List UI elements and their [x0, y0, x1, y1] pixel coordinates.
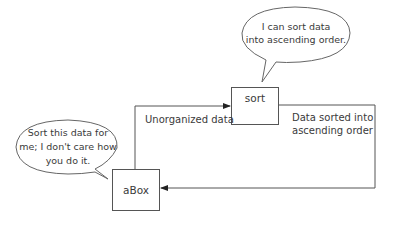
- edge-label-sorted-line2: ascending order: [292, 124, 373, 137]
- sort-bubble-line2: into ascending order.: [245, 33, 347, 46]
- sort-box-label: sort: [232, 92, 278, 105]
- edge-label-sorted-line1: Data sorted into: [292, 111, 373, 124]
- edge-label-unorganized-data: Unorganized data: [145, 113, 234, 126]
- abox-bubble-line1: Sort this data for: [18, 126, 118, 139]
- abox-bubble-line3: you do it.: [18, 154, 118, 167]
- sort-box: sort: [231, 87, 279, 125]
- abox-box-label: aBox: [113, 184, 159, 197]
- sort-bubble-line1: I can sort data: [245, 20, 347, 33]
- abox-box: aBox: [112, 169, 160, 211]
- abox-bubble-line2: me; I don't care how: [18, 140, 118, 153]
